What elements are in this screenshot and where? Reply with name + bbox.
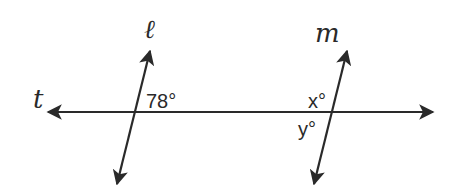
- angle-78: 78°: [146, 90, 176, 112]
- label-t: t: [33, 84, 44, 114]
- label-l: ℓ: [144, 14, 155, 44]
- label-m: m: [315, 18, 340, 48]
- diagram-svg: t ℓ m 78° x° y°: [0, 0, 458, 190]
- line-m: [314, 51, 347, 184]
- diagram-canvas: t ℓ m 78° x° y°: [0, 0, 458, 190]
- angle-y: y°: [298, 118, 316, 140]
- line-l: [117, 51, 150, 184]
- angle-x: x°: [308, 90, 326, 112]
